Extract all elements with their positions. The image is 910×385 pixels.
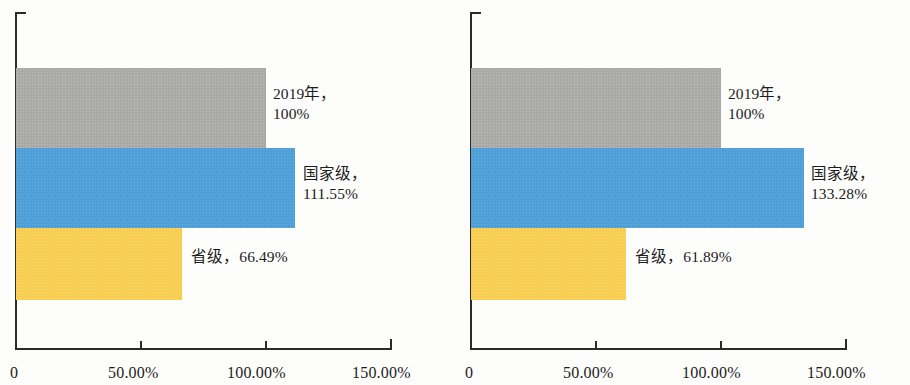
data-label-provincial-value-left: 66.49%	[239, 248, 287, 265]
x-tick-50-left	[140, 341, 142, 350]
x-tick-label-0-left: 0	[10, 364, 18, 382]
x-tick-0-right	[470, 339, 472, 350]
chart-panel-left: 2019年， 100% 国家级， 111.55% 省级，66.49% 0 50.…	[0, 0, 455, 385]
data-label-provincial-right: 省级，61.89%	[635, 247, 732, 267]
bar-provincial-right	[471, 228, 626, 300]
y-axis-top-cap-left	[15, 12, 26, 14]
x-tick-label-50-right: 50.00%	[563, 364, 614, 382]
y-axis-top-cap-right	[470, 12, 481, 14]
x-tick-label-100-left: 100.00%	[227, 364, 286, 382]
x-tick-label-150-right: 150.00%	[807, 364, 866, 382]
data-label-national-left: 国家级， 111.55%	[303, 164, 367, 205]
data-label-provincial-value-right: 61.89%	[683, 248, 731, 265]
data-label-national-name-right: 国家级，	[811, 165, 875, 182]
x-tick-label-150-left: 150.00%	[352, 364, 411, 382]
data-label-national-value-right: 133.28%	[811, 184, 875, 204]
data-label-national-right: 国家级， 133.28%	[811, 164, 875, 205]
x-tick-label-50-left: 50.00%	[108, 364, 159, 382]
x-tick-150-left	[390, 339, 392, 350]
plot-area-right: 2019年， 100% 国家级， 133.28% 省级，61.89% 0 50.…	[470, 12, 862, 350]
x-tick-label-100-right: 100.00%	[682, 364, 741, 382]
x-tick-100-right	[720, 341, 722, 350]
x-tick-label-0-right: 0	[465, 364, 473, 382]
data-label-2019-value-right: 100%	[728, 104, 792, 124]
x-axis-line-left	[15, 348, 392, 350]
bar-national-right	[471, 148, 804, 228]
data-label-provincial-name-right: 省级，	[635, 248, 683, 265]
data-label-2019-left: 2019年， 100%	[273, 84, 337, 125]
x-tick-50-right	[595, 341, 597, 350]
dual-bar-chart-figure: 2019年， 100% 国家级， 111.55% 省级，66.49% 0 50.…	[0, 0, 910, 385]
chart-panel-right: 2019年， 100% 国家级， 133.28% 省级，61.89% 0 50.…	[455, 0, 910, 385]
data-label-2019-name-left: 2019年，	[273, 85, 337, 102]
data-label-2019-value-left: 100%	[273, 104, 337, 124]
data-label-provincial-left: 省级，66.49%	[191, 247, 288, 267]
bar-provincial-left	[16, 228, 182, 300]
data-label-provincial-name-left: 省级，	[191, 248, 239, 265]
bar-2019-right	[471, 68, 721, 148]
x-tick-0-left	[15, 339, 17, 350]
data-label-national-value-left: 111.55%	[303, 184, 367, 204]
data-label-national-name-left: 国家级，	[303, 165, 367, 182]
x-tick-150-right	[845, 339, 847, 350]
x-tick-100-left	[265, 341, 267, 350]
data-label-2019-right: 2019年， 100%	[728, 84, 792, 125]
bar-2019-left	[16, 68, 266, 148]
x-axis-line-right	[470, 348, 847, 350]
plot-area-left: 2019年， 100% 国家级， 111.55% 省级，66.49% 0 50.…	[15, 12, 407, 350]
data-label-2019-name-right: 2019年，	[728, 85, 792, 102]
bar-national-left	[16, 148, 295, 228]
